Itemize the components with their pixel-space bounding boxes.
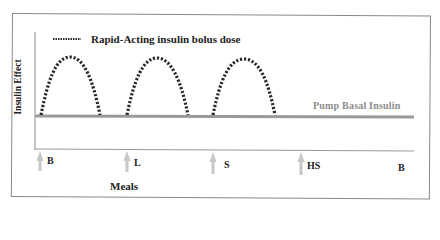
- legend-label-bolus: Rapid-Acting insulin bolus dose: [91, 33, 240, 45]
- bolus-curve-lunch: [127, 58, 188, 115]
- x-axis-baseline: [35, 149, 414, 151]
- meal-arrow-icon: [37, 151, 44, 171]
- meal-arrow-icon: [298, 152, 305, 175]
- meal-label-bedtime: HS: [307, 160, 320, 171]
- x-axis-label: Meals: [110, 180, 138, 192]
- meal-label-breakfast: B: [47, 155, 54, 166]
- bolus-curve-breakfast: [41, 57, 100, 115]
- meal-label-supper: S: [224, 159, 230, 170]
- basal-insulin-label: Pump Basal Insulin: [313, 100, 401, 111]
- basal-insulin-line: [35, 116, 414, 117]
- meal-label-lunch: L: [134, 157, 141, 168]
- meal-arrow-icon: [124, 151, 131, 172]
- bolus-curve-supper: [213, 59, 275, 115]
- meal-label-next-breakfast: B: [398, 162, 405, 173]
- y-axis-label: Insulin Effect: [13, 57, 23, 117]
- meal-arrow-icon: [210, 152, 217, 174]
